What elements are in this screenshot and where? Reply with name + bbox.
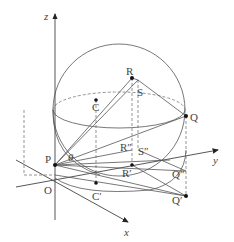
points: [53, 76, 188, 198]
label-P: P: [45, 153, 51, 165]
origin-label: O: [44, 184, 52, 196]
angle-theta-label: θ: [68, 151, 74, 163]
x-axis-label: x: [123, 226, 129, 238]
label-Q-double-prime: Q″: [172, 168, 185, 180]
label-S-double-prime: S″: [138, 145, 149, 157]
point-C-prime: [94, 181, 98, 185]
label-Q: Q: [190, 111, 198, 123]
label-R: R: [126, 65, 134, 77]
point-Q: [184, 114, 188, 118]
label-C-prime: C′: [92, 190, 102, 202]
sphere-projection-diagram: z y x O P θ R S Q C C′ R″ S″ Q″ R′ Q′: [0, 0, 234, 242]
z-axis-label: z: [43, 10, 49, 22]
rays: [55, 78, 186, 196]
y-axis-label: y: [212, 154, 218, 166]
label-R-double-prime: R″: [120, 141, 132, 153]
point-Q-prime: [184, 194, 188, 198]
label-R-prime: R′: [122, 167, 132, 179]
labels: z y x O P θ R S Q C C′ R″ S″ Q″ R′ Q′: [43, 10, 218, 238]
label-Q-prime: Q′: [172, 194, 182, 206]
label-S: S: [137, 86, 143, 98]
label-C: C: [92, 101, 99, 113]
point-P: [53, 163, 57, 167]
